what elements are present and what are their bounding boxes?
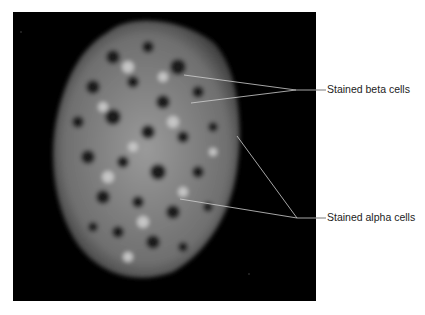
micrograph-panel [13, 12, 316, 301]
leader-lines [13, 12, 316, 301]
label-beta-cells: Stained beta cells [327, 83, 410, 95]
leader-line-ext [316, 0, 328, 315]
label-alpha-cells: Stained alpha cells [327, 211, 415, 223]
